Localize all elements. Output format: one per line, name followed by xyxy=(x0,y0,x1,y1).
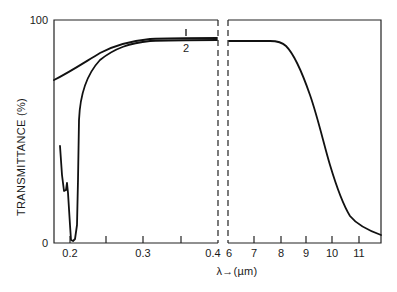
x-ticks xyxy=(70,236,359,243)
x-tick-10: 10 xyxy=(326,247,338,259)
x-tick-0.4: 0.4 xyxy=(205,247,220,259)
x-tick-9: 9 xyxy=(303,247,309,259)
x-tick-11: 11 xyxy=(353,247,364,259)
transmittance-chart: 100 0 0.2 0.3 0.4 6 7 8 9 10 11 λ→(µm) T… xyxy=(0,0,397,292)
x-tick-0.2: 0.2 xyxy=(62,247,77,259)
y-tick-100: 100 xyxy=(30,14,48,26)
y-axis-title: TRANSMITTANCE (%) xyxy=(15,98,27,216)
x-tick-8: 8 xyxy=(278,247,284,259)
x-tick-7: 7 xyxy=(251,247,257,259)
curve-1 xyxy=(54,38,217,80)
curve-2-label: 2 xyxy=(183,42,189,54)
y-tick-0: 0 xyxy=(42,237,48,249)
curve-2 xyxy=(60,40,217,241)
x-tick-6: 6 xyxy=(226,247,232,259)
x-axis-title: λ→(µm) xyxy=(216,265,257,277)
x-tick-0.3: 0.3 xyxy=(135,247,150,259)
axis-break xyxy=(218,20,228,243)
curve-ir xyxy=(229,41,381,235)
